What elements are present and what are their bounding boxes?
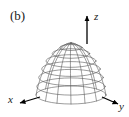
surface-mesh [36,43,106,104]
z-axis-label: z [93,10,99,22]
x-axis-label: x [7,93,13,105]
y-axis: y [102,97,124,112]
mesh-meridian [57,43,71,103]
mesh-parallel [39,69,104,85]
x-axis: x [7,93,40,105]
y-axis-label: y [118,100,124,112]
z-axis: z [87,10,99,44]
mesh-meridians [36,43,106,104]
y-axis-line [102,97,118,104]
paraboloid-figure-svg: z x y [0,0,129,117]
mesh-meridian [71,43,85,103]
x-axis-line [20,97,40,103]
figure-container: (b) [0,0,129,117]
